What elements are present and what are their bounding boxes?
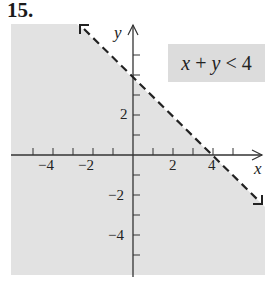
y-tick-label: −2 <box>108 188 124 203</box>
var-x: x <box>181 52 190 75</box>
rhs-value: 4 <box>242 52 252 75</box>
y-axis-label: y <box>114 24 122 41</box>
y-tick-label: −4 <box>108 228 124 243</box>
x-tick-label: 2 <box>169 158 177 173</box>
x-tick-label: −4 <box>38 158 54 173</box>
coordinate-plane <box>0 0 265 281</box>
x-axis-label: x <box>254 160 262 177</box>
plus-sign: + <box>190 52 211 75</box>
y-tick-label: 2 <box>120 107 128 122</box>
var-y: y <box>212 52 221 75</box>
inequality-label: x + y < 4 <box>168 44 265 82</box>
less-than-sign: < <box>220 52 241 75</box>
x-tick-label: 4 <box>208 158 216 173</box>
x-tick-label: −2 <box>78 158 94 173</box>
